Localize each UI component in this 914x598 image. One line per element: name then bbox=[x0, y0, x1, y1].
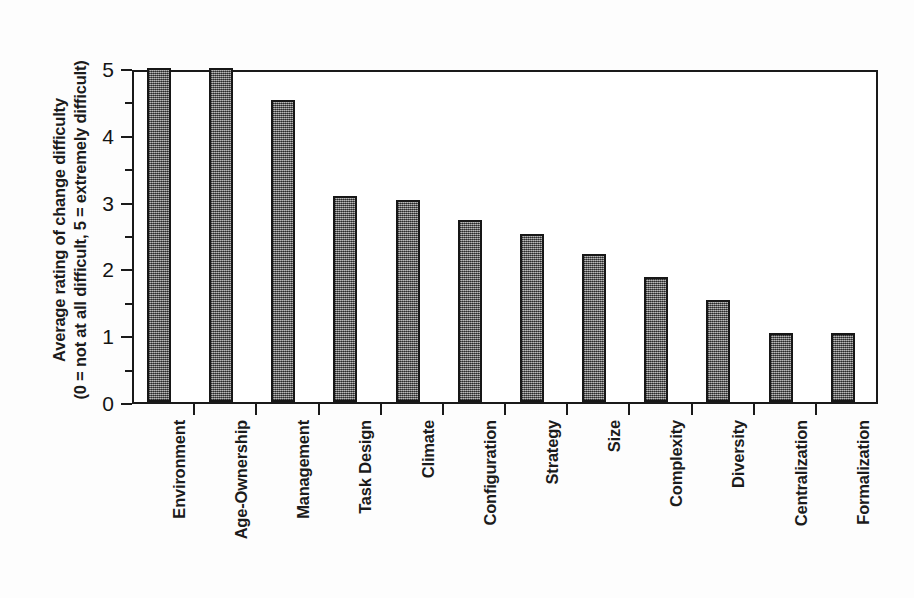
x-axis-label-configuration: Configuration bbox=[479, 420, 501, 590]
bar-strategy bbox=[520, 234, 544, 402]
bar-complexity bbox=[644, 277, 668, 402]
y-tick-label: 0 bbox=[74, 392, 114, 416]
x-axis-labels: EnvironmentAge-OwnershipManagementTask D… bbox=[132, 420, 878, 598]
y-tick-mark-major bbox=[121, 69, 132, 71]
x-tick-mark bbox=[193, 404, 195, 415]
bar-age-ownership bbox=[209, 68, 233, 402]
y-tick-mark-minor bbox=[125, 169, 132, 171]
x-axis-label-management: Management bbox=[292, 420, 314, 590]
y-tick-label: 2 bbox=[74, 258, 114, 282]
y-tick-mark-minor bbox=[125, 370, 132, 372]
x-axis-label-age-ownership: Age-Ownership bbox=[230, 420, 252, 590]
x-tick-mark bbox=[753, 404, 755, 415]
bar-size bbox=[582, 254, 606, 402]
y-tick-mark-minor bbox=[125, 102, 132, 104]
x-axis-label-environment: Environment bbox=[168, 420, 190, 590]
y-tick-mark-major bbox=[121, 403, 132, 405]
x-axis-label-complexity: Complexity bbox=[665, 420, 687, 590]
y-tick-mark-minor bbox=[125, 236, 132, 238]
plot-area bbox=[132, 70, 878, 404]
bar-management bbox=[271, 100, 295, 402]
x-axis-label-task-design: Task Design bbox=[354, 420, 376, 590]
x-axis-label-strategy: Strategy bbox=[541, 420, 563, 590]
bar-centralization bbox=[769, 333, 793, 402]
y-tick-label: 3 bbox=[74, 192, 114, 216]
x-axis-label-centralization: Centralization bbox=[790, 420, 812, 590]
y-tick-mark-major bbox=[121, 203, 132, 205]
x-tick-mark bbox=[504, 404, 506, 415]
y-tick-label: 4 bbox=[74, 125, 114, 149]
x-tick-mark bbox=[566, 404, 568, 415]
bar-environment bbox=[147, 68, 171, 402]
x-tick-mark bbox=[442, 404, 444, 415]
y-axis: 012345 bbox=[0, 0, 132, 598]
x-tick-mark bbox=[318, 404, 320, 415]
x-tick-mark bbox=[815, 404, 817, 415]
bar-diversity bbox=[706, 300, 730, 402]
bar-formalization bbox=[831, 333, 855, 402]
bar-configuration bbox=[458, 220, 482, 402]
y-tick-mark-minor bbox=[125, 303, 132, 305]
x-axis-ticks bbox=[132, 404, 878, 420]
x-tick-mark bbox=[380, 404, 382, 415]
y-tick-label: 1 bbox=[74, 325, 114, 349]
y-tick-mark-major bbox=[121, 336, 132, 338]
x-axis-label-size: Size bbox=[603, 420, 625, 590]
y-tick-mark-major bbox=[121, 136, 132, 138]
bar-climate bbox=[396, 200, 420, 402]
bar-chart-figure: Average rating of change difficulty (0 =… bbox=[0, 0, 914, 598]
x-axis-label-climate: Climate bbox=[417, 420, 439, 590]
x-tick-mark bbox=[628, 404, 630, 415]
x-tick-mark bbox=[691, 404, 693, 415]
x-axis-label-formalization: Formalization bbox=[852, 420, 874, 590]
bar-task-design bbox=[333, 196, 357, 402]
x-tick-mark bbox=[255, 404, 257, 415]
y-tick-label: 5 bbox=[74, 58, 114, 82]
y-tick-mark-major bbox=[121, 269, 132, 271]
x-axis-label-diversity: Diversity bbox=[727, 420, 749, 590]
